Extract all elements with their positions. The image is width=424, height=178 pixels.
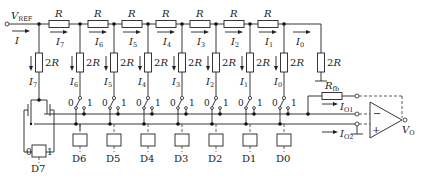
r-label: R	[127, 8, 136, 19]
svg-text:2R: 2R	[120, 57, 134, 68]
series-current-label: I1	[264, 36, 273, 49]
svg-text:1: 1	[257, 98, 263, 108]
series-resistor	[49, 21, 69, 28]
bit-labels: D7 D6 D5 D4 D3 D2 D1 D0	[31, 153, 290, 174]
r2r-dac-diagram: VREF I R R R R R R R I7 I6 I5 I4	[0, 0, 424, 178]
svg-text:I1: I1	[239, 76, 248, 89]
svg-text:1: 1	[223, 98, 229, 108]
svg-text:0: 0	[204, 98, 210, 108]
series-current-label: I5	[128, 36, 137, 49]
series-resistor	[122, 21, 142, 28]
svg-text:0: 0	[238, 98, 244, 108]
svg-text:2R: 2R	[256, 57, 270, 68]
svg-text:1: 1	[155, 98, 161, 108]
bit-label-d0: D0	[276, 153, 290, 164]
svg-text:I4: I4	[137, 76, 146, 89]
input-current-label: I	[14, 35, 20, 46]
bit-label-d4: D4	[140, 153, 154, 164]
svg-text:I5: I5	[103, 76, 112, 89]
rfb-label: Rfb	[324, 80, 339, 93]
svg-text:I7: I7	[28, 76, 37, 89]
term-2r-label: 2R	[327, 57, 341, 68]
svg-text:1: 1	[189, 98, 195, 108]
svg-text:0: 0	[102, 98, 108, 108]
series-current-label: I0	[295, 36, 304, 49]
io2-terminal	[355, 122, 359, 126]
io1-label: IO1	[339, 101, 353, 114]
svg-text:0: 0	[170, 98, 176, 108]
d7-one-label: 1	[47, 147, 53, 157]
vo-terminal	[403, 118, 407, 122]
svg-text:2R: 2R	[290, 57, 304, 68]
vref-terminal	[5, 22, 9, 26]
bit-label-d7: D7	[31, 163, 45, 174]
r-label: R	[93, 8, 102, 19]
d7-zero-label: 0	[26, 147, 32, 157]
svg-text:1: 1	[87, 98, 93, 108]
svg-text:2R: 2R	[154, 57, 168, 68]
opamp-plus: +	[372, 124, 380, 135]
vo-label: VO	[402, 124, 415, 137]
svg-text:2R: 2R	[45, 57, 59, 68]
svg-text:2R: 2R	[188, 57, 202, 68]
series-resistor	[190, 21, 210, 28]
series-resistor	[156, 21, 176, 28]
svg-text:2R: 2R	[86, 57, 100, 68]
r-label: R	[263, 8, 272, 19]
series-current-arrows	[50, 30, 311, 34]
feedback-resistor	[322, 93, 342, 100]
series-resistor	[258, 21, 278, 28]
series-current-label: I6	[94, 36, 103, 49]
series-current-label: I7	[55, 36, 64, 49]
arrow-head-icon	[333, 102, 338, 106]
bit-label-d6: D6	[72, 153, 86, 164]
series-current-label: I4	[162, 36, 171, 49]
series-resistor	[224, 21, 244, 28]
svg-text:I3: I3	[171, 76, 180, 89]
svg-text:I6: I6	[69, 76, 78, 89]
arrow-head-icon	[333, 130, 338, 134]
branch-current-labels: I7 I6 I5 I4 I3 I2 I1 I0	[28, 76, 282, 89]
vref-label: VREF	[11, 10, 33, 23]
opamp-minus: −	[373, 108, 381, 119]
svg-text:0: 0	[272, 98, 278, 108]
bit-label-d5: D5	[106, 153, 120, 164]
series-current-labels: I7 I6 I5 I4 I3 I2 I1 I0	[55, 36, 304, 49]
svg-text:0: 0	[136, 98, 142, 108]
svg-text:1: 1	[121, 98, 127, 108]
series-resistor	[88, 21, 108, 28]
r-label: R	[229, 8, 238, 19]
series-resistor-labels: R R R R R R R	[54, 8, 272, 19]
terminating-resistor	[318, 53, 325, 72]
r-label: R	[195, 8, 204, 19]
io2-label: IO2	[339, 128, 353, 141]
svg-text:1: 1	[291, 98, 297, 108]
svg-text:2R: 2R	[222, 57, 236, 68]
svg-text:0: 0	[68, 98, 74, 108]
io1-terminal	[355, 112, 359, 116]
svg-text:I0: I0	[273, 76, 282, 89]
bit-label-d3: D3	[174, 153, 188, 164]
r-label: R	[54, 8, 63, 19]
series-current-label: I2	[230, 36, 239, 49]
arrow-head-icon	[25, 29, 30, 33]
r-label: R	[161, 8, 170, 19]
svg-text:I2: I2	[205, 76, 214, 89]
bit-label-d1: D1	[242, 153, 256, 164]
series-current-label: I3	[196, 36, 205, 49]
bit-label-d2: D2	[208, 153, 222, 164]
rfb-terminal	[355, 94, 359, 98]
